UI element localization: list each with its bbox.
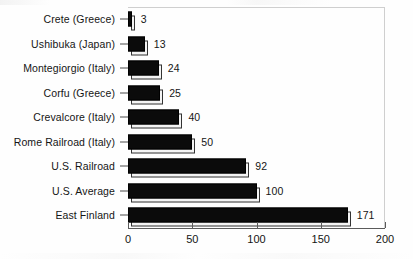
category-label: Crete (Greece) [44,13,115,25]
bar-row: Crevalcore (Italy)40 [0,105,413,130]
bar-value-label: 100 [266,185,284,197]
bar-value-label: 50 [201,136,213,148]
bar-row: Rome Railroad (Italy)50 [0,130,413,155]
category-tick-mark [120,117,128,118]
category-tick-mark [120,92,128,93]
bar-rows: Crete (Greece)3Ushibuka (Japan)13Montegi… [0,7,413,228]
bar [128,85,160,100]
bar-chart: Crete (Greece)3Ushibuka (Japan)13Montegi… [0,0,413,259]
bar-value-label: 3 [141,13,147,25]
bar [128,134,192,149]
x-tick-mark [257,222,258,228]
x-tick-label: 200 [376,233,394,245]
bar-value-label: 13 [154,38,166,50]
bar-fill [128,208,348,223]
bar-fill [128,159,246,174]
bar-row: Crete (Greece)3 [0,7,413,32]
x-tick-mark [192,222,193,228]
category-tick-mark [120,68,128,69]
bar [128,61,159,76]
bar-row: Ushibuka (Japan)13 [0,32,413,57]
scan-artifact-bottom [0,253,413,259]
x-tick-label: 50 [186,233,198,245]
bar-fill [128,110,179,125]
bar-value-label: 40 [188,111,200,123]
bar-fill [128,61,159,76]
category-label: U.S. Average [52,185,115,197]
category-label: Corfu (Greece) [44,87,115,99]
bar-fill [128,183,257,198]
category-tick-mark [120,141,128,142]
bar-fill [128,134,192,149]
bar [128,12,132,27]
x-axis-line [128,228,385,229]
bar-row: U.S. Average100 [0,179,413,204]
x-tick-mark [128,222,129,228]
x-tick-mark [321,222,322,228]
bar [128,159,246,174]
bar [128,36,145,51]
bar-row: Corfu (Greece)25 [0,81,413,106]
bar-fill [128,12,132,27]
bar-row: Montegiorgio (Italy)24 [0,56,413,81]
bar-value-label: 25 [169,87,181,99]
bar-value-label: 92 [255,160,267,172]
scan-artifact-top [0,0,413,5]
category-tick-mark [120,19,128,20]
category-label: U.S. Railroad [51,160,115,172]
bar-fill [128,36,145,51]
bar-value-label: 24 [168,62,180,74]
category-tick-mark [120,43,128,44]
bar [128,110,179,125]
category-label: Crevalcore (Italy) [33,111,115,123]
category-label: Ushibuka (Japan) [31,38,115,50]
category-label: Rome Railroad (Italy) [14,136,115,148]
bar-value-label: 171 [357,209,375,221]
category-label: Montegiorgio (Italy) [23,62,115,74]
x-tick-label: 100 [247,233,265,245]
category-tick-mark [120,190,128,191]
x-tick-mark [385,222,386,228]
bar [128,183,257,198]
bar-fill [128,85,160,100]
category-tick-mark [120,215,128,216]
bar-row: East Finland171 [0,203,413,228]
bar [128,208,348,223]
category-label: East Finland [55,209,115,221]
x-tick-label: 0 [125,233,131,245]
x-tick-label: 150 [312,233,330,245]
category-tick-mark [120,166,128,167]
bar-row: U.S. Railroad92 [0,154,413,179]
